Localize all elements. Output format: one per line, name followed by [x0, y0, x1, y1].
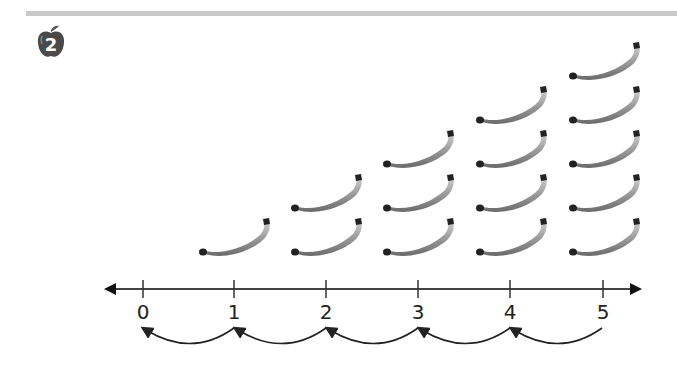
- left-arrow-icon: [104, 283, 116, 295]
- tick-label-0: 0: [128, 300, 158, 324]
- tick-label-1: 1: [219, 300, 249, 324]
- tick-label-2: 2: [311, 300, 341, 324]
- right-arrow-icon: [630, 283, 642, 295]
- tick-label-4: 4: [495, 300, 525, 324]
- tick-label-5: 5: [588, 300, 618, 324]
- hop-arrows: [146, 328, 602, 344]
- tick-label-3: 3: [403, 300, 433, 324]
